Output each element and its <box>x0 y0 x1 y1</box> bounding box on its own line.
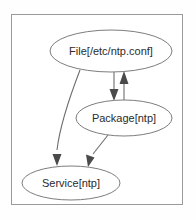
node-service[interactable]: Service[ntp] <box>22 166 120 200</box>
diagram-canvas: File[/etc/ntp.conf] Package[ntp] Service… <box>0 0 196 222</box>
edge-file-to-package <box>110 72 119 101</box>
node-file-label: File[/etc/ntp.conf] <box>69 45 153 57</box>
edge-package-to-file <box>120 71 129 100</box>
edge-file-to-package-arrowhead <box>110 89 119 101</box>
edge-package-to-file-arrowhead <box>120 71 129 84</box>
node-file[interactable]: File[/etc/ntp.conf] <box>50 30 172 72</box>
node-service-label: Service[ntp] <box>42 177 100 189</box>
node-package[interactable]: Package[ntp] <box>76 100 172 136</box>
edge-package-to-service-line <box>93 135 108 154</box>
edge-file-to-service-arrowhead <box>53 154 62 166</box>
node-package-label: Package[ntp] <box>92 112 156 124</box>
edge-package-to-service <box>86 135 108 167</box>
edge-file-to-service-line <box>57 70 80 150</box>
dependency-graph: File[/etc/ntp.conf] Package[ntp] Service… <box>0 0 196 222</box>
edge-package-to-service-arrowhead <box>86 155 95 168</box>
